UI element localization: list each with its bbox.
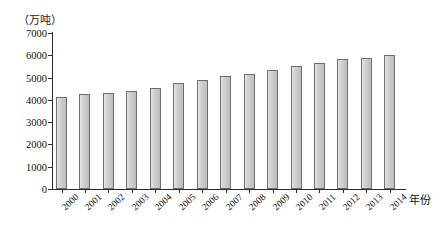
x-axis-tick-label: 2004 bbox=[153, 192, 174, 212]
x-axis-tick-label: 2010 bbox=[294, 192, 315, 212]
x-axis-tick-mark bbox=[226, 189, 227, 193]
x-axis-tick-label: 2003 bbox=[130, 192, 151, 212]
x-axis-tick-mark bbox=[179, 189, 180, 193]
x-axis-tick-mark bbox=[202, 189, 203, 193]
x-axis-tick-mark bbox=[249, 189, 250, 193]
y-axis-tick-label: 4000 bbox=[26, 94, 47, 105]
x-axis-tick-mark bbox=[343, 189, 344, 193]
bar bbox=[197, 80, 208, 189]
bar bbox=[244, 74, 255, 189]
bar bbox=[361, 58, 372, 189]
y-axis-tick-label: 0 bbox=[42, 184, 47, 195]
x-axis-tick-mark bbox=[85, 189, 86, 193]
x-axis-tick-mark bbox=[155, 189, 156, 193]
x-axis-tick-label: 2001 bbox=[83, 192, 104, 212]
y-axis-tick-label: 1000 bbox=[26, 161, 47, 172]
bar bbox=[173, 83, 184, 189]
x-axis-tick-mark bbox=[132, 189, 133, 193]
bar bbox=[314, 63, 325, 189]
bar bbox=[220, 76, 231, 189]
bar bbox=[150, 88, 161, 189]
plot-area: 01000200030004000500060007000 bbox=[52, 33, 405, 189]
y-axis-tick-mark bbox=[48, 167, 52, 168]
x-axis-tick-label: 2002 bbox=[106, 192, 127, 212]
x-axis-line bbox=[52, 189, 406, 190]
bar bbox=[267, 70, 278, 189]
bar bbox=[56, 97, 67, 189]
bar bbox=[384, 55, 395, 189]
y-axis-unit-label: （万吨） bbox=[18, 11, 62, 27]
x-axis-tick-mark bbox=[62, 189, 63, 193]
bar-chart: （万吨） 01000200030004000500060007000 年份 20… bbox=[0, 0, 440, 229]
x-axis-tick-mark bbox=[390, 189, 391, 193]
bar bbox=[103, 93, 114, 189]
y-axis-tick-mark bbox=[48, 55, 52, 56]
y-axis-tick-label: 7000 bbox=[26, 28, 47, 39]
x-axis-tick-label: 2005 bbox=[177, 192, 198, 212]
y-axis-tick-label: 6000 bbox=[26, 50, 47, 61]
x-axis-tick-label: 2012 bbox=[341, 192, 362, 212]
x-axis-tick-label: 2008 bbox=[247, 192, 268, 212]
y-axis-tick-label: 2000 bbox=[26, 139, 47, 150]
x-axis-tick-label: 2000 bbox=[59, 192, 80, 212]
x-axis-tick-label: 2013 bbox=[364, 192, 385, 212]
y-axis-tick-mark bbox=[48, 122, 52, 123]
bar bbox=[337, 59, 348, 189]
x-axis-tick-label: 2009 bbox=[270, 192, 291, 212]
x-axis-tick-mark bbox=[366, 189, 367, 193]
x-axis-tick-mark bbox=[273, 189, 274, 193]
y-axis-tick-mark bbox=[48, 189, 52, 190]
x-axis-tick-label: 2011 bbox=[318, 192, 339, 212]
y-axis-tick-mark bbox=[48, 100, 52, 101]
y-axis-tick-mark bbox=[48, 144, 52, 145]
x-axis-title: 年份 bbox=[409, 191, 431, 207]
bar bbox=[126, 91, 137, 189]
x-axis-tick-mark bbox=[319, 189, 320, 193]
x-axis-tick-mark bbox=[296, 189, 297, 193]
x-axis-tick-mark bbox=[108, 189, 109, 193]
bar bbox=[79, 94, 90, 189]
x-axis-tick-label: 2006 bbox=[200, 192, 221, 212]
y-axis-tick-label: 3000 bbox=[26, 117, 47, 128]
x-axis-tick-label: 2007 bbox=[224, 192, 245, 212]
y-axis-tick-mark bbox=[48, 78, 52, 79]
x-axis-tick-label: 2014 bbox=[388, 192, 409, 212]
bar bbox=[291, 66, 302, 189]
y-axis-tick-label: 5000 bbox=[26, 72, 47, 83]
y-axis-tick-mark bbox=[48, 33, 52, 34]
